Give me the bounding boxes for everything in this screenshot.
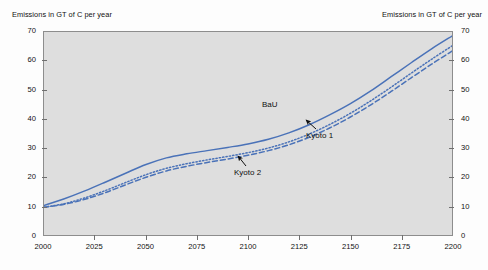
series-line-bau	[44, 36, 452, 205]
x-tick-label-2200: 2200	[438, 243, 468, 251]
x-tick-mark-2075	[197, 235, 198, 240]
y-tick-mark-left-10	[42, 207, 47, 208]
y-tick-label-right-0: 0	[461, 232, 481, 240]
x-tick-label-2075: 2075	[182, 243, 212, 251]
y-tick-mark-left-30	[42, 148, 47, 149]
y-tick-mark-right-10	[449, 207, 454, 208]
x-tick-label-2025: 2025	[79, 243, 109, 251]
y-tick-label-right-70: 70	[461, 27, 481, 35]
x-tick-label-2100: 2100	[233, 243, 263, 251]
x-tick-mark-2150	[351, 235, 352, 240]
y-tick-label-left-50: 50	[16, 86, 36, 94]
x-tick-mark-2025	[94, 235, 95, 240]
y-tick-label-left-10: 10	[16, 203, 36, 211]
emissions-chart-figure: Emissions in GT of C per year Emissions …	[0, 0, 488, 270]
y-tick-label-left-60: 60	[16, 56, 36, 64]
y-tick-label-right-60: 60	[461, 56, 481, 64]
y-tick-mark-right-20	[449, 177, 454, 178]
series-line-kyoto-2	[44, 51, 452, 207]
annotation-label-bau: BaU	[262, 100, 278, 109]
y-tick-label-left-20: 20	[16, 173, 36, 181]
y-tick-label-right-20: 20	[461, 173, 481, 181]
x-tick-label-2050: 2050	[131, 243, 161, 251]
y-tick-mark-left-60	[42, 60, 47, 61]
y-tick-mark-left-40	[42, 119, 47, 120]
y-tick-label-left-40: 40	[16, 115, 36, 123]
y-tick-label-right-50: 50	[461, 86, 481, 94]
x-tick-label-2150: 2150	[336, 243, 366, 251]
y-tick-label-right-40: 40	[461, 115, 481, 123]
x-tick-mark-2100	[248, 235, 249, 240]
y-tick-mark-left-20	[42, 177, 47, 178]
right-axis-title: Emissions in GT of C per year	[382, 10, 482, 19]
annotation-label-kyoto-2: Kyoto 2	[234, 168, 261, 177]
series-lines	[44, 32, 452, 235]
y-tick-label-left-70: 70	[16, 27, 36, 35]
x-tick-mark-2125	[299, 235, 300, 240]
y-tick-label-left-0: 0	[16, 232, 36, 240]
x-tick-label-2175: 2175	[387, 243, 417, 251]
annotation-label-kyoto-1: Kyoto 1	[306, 131, 333, 140]
y-tick-mark-right-40	[449, 119, 454, 120]
left-axis-title: Emissions in GT of C per year	[12, 10, 112, 19]
plot-area	[43, 31, 453, 236]
x-tick-mark-2175	[402, 235, 403, 240]
y-tick-label-left-30: 30	[16, 144, 36, 152]
y-tick-mark-right-60	[449, 60, 454, 61]
x-tick-mark-2050	[146, 235, 147, 240]
y-tick-label-right-30: 30	[461, 144, 481, 152]
x-tick-label-2125: 2125	[284, 243, 314, 251]
y-tick-mark-right-50	[449, 90, 454, 91]
y-tick-mark-left-50	[42, 90, 47, 91]
x-tick-label-2000: 2000	[28, 243, 58, 251]
y-tick-label-right-10: 10	[461, 203, 481, 211]
y-tick-mark-right-30	[449, 148, 454, 149]
